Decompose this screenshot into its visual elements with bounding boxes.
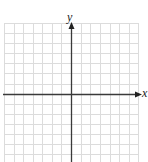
y-axis-label: y	[67, 11, 72, 23]
coordinate-plane	[0, 0, 148, 162]
x-axis-label: x	[142, 87, 147, 99]
